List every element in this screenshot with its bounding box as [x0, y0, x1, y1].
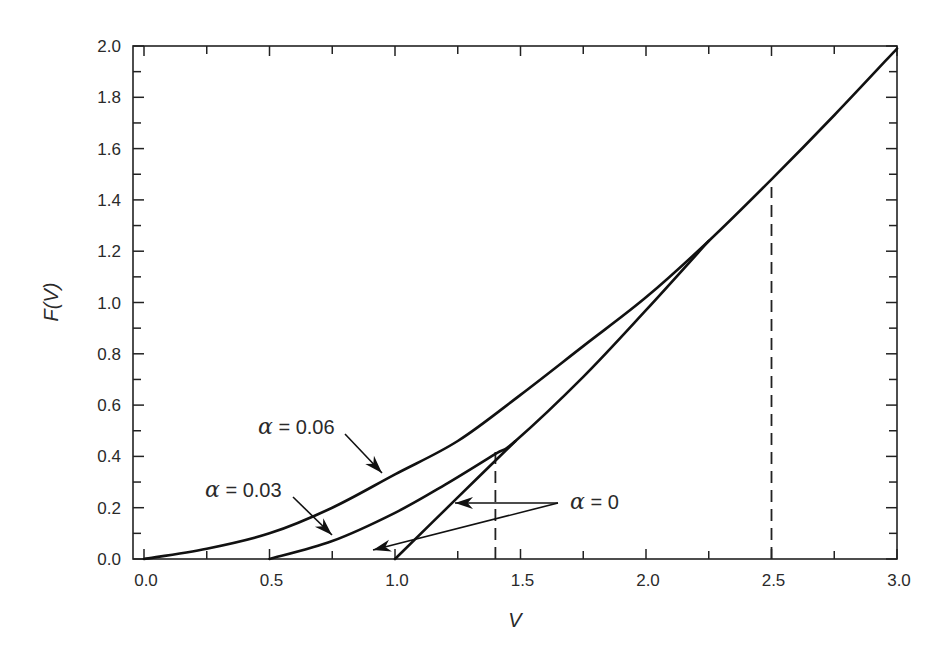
y-tick-label: 1.6 [97, 140, 121, 159]
alpha-symbol: α [205, 477, 220, 502]
annotation-alpha-006: α = 0.06 [258, 414, 335, 439]
y-tick-label: 0.4 [97, 447, 121, 466]
y-tick-label: 1.8 [97, 88, 121, 107]
y-tick-label: 2.0 [97, 37, 121, 56]
y-tick-label: 1.0 [97, 294, 121, 313]
alpha-symbol: α [258, 414, 273, 439]
y-tick-label: 1.2 [97, 242, 121, 261]
y-tick-label: 0.6 [97, 396, 121, 415]
curve-alpha-0 [395, 441, 515, 559]
annotation-value: = 0.06 [273, 416, 335, 438]
x-tick-label: 0.5 [260, 571, 284, 590]
alpha-symbol: α [570, 489, 585, 514]
x-tick-label: 2.0 [636, 571, 660, 590]
x-tick-label: 2.5 [762, 571, 786, 590]
x-tick-label: 1.5 [511, 571, 535, 590]
annotation-value: = 0 [585, 491, 619, 513]
annotation-alpha-0: α = 0 [570, 489, 619, 514]
y-tick-label: 0.2 [97, 499, 121, 518]
annotation-value: = 0.03 [220, 479, 282, 501]
annotation-arrows [293, 434, 558, 551]
x-tick-label: 0.0 [134, 571, 158, 590]
chart: 0.00.51.01.52.02.53.00.00.20.40.60.81.01… [0, 0, 950, 661]
x-tick-label: 1.0 [385, 571, 409, 590]
x-axis-title: V [508, 609, 523, 631]
axis-tick-labels: 0.00.51.01.52.02.53.00.00.20.40.60.81.01… [97, 37, 910, 590]
y-tick-label: 1.4 [97, 191, 121, 210]
annotation-alpha-003: α = 0.03 [205, 477, 282, 502]
y-axis-title: F(V) [40, 283, 62, 322]
x-tick-label: 3.0 [887, 571, 911, 590]
y-tick-label: 0.0 [97, 550, 121, 569]
curve-alpha-003 [270, 241, 709, 559]
y-tick-label: 0.8 [97, 345, 121, 364]
